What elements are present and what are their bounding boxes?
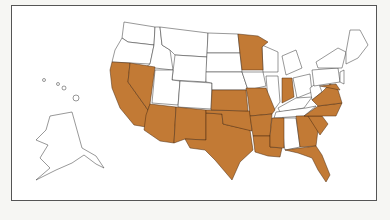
state-ND (207, 33, 240, 53)
state-NE (206, 72, 248, 90)
state-IN (282, 78, 294, 103)
state-MS (270, 118, 284, 148)
state-OH (293, 74, 312, 98)
state-AZ (144, 104, 176, 143)
state-NE-states (346, 30, 368, 64)
state-PA (312, 68, 340, 86)
state-KS (211, 90, 248, 111)
state-SD (206, 53, 242, 72)
state-WY (172, 55, 207, 82)
us-map (0, 0, 390, 220)
state-HI (43, 79, 80, 102)
state-WI (262, 45, 278, 72)
state-NJ (340, 70, 344, 84)
state-AR (250, 114, 272, 136)
state-NM (174, 107, 206, 143)
state-MI (282, 50, 302, 75)
state-AK (36, 112, 104, 180)
state-NY (316, 48, 346, 68)
state-FL (285, 146, 330, 182)
state-CO (178, 81, 212, 109)
